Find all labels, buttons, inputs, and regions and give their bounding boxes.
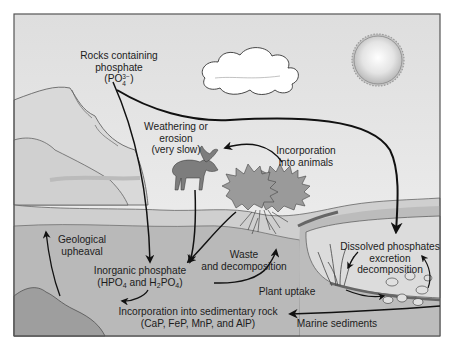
label-line: (CaP, FeP, MnP, and AlP)	[106, 318, 290, 330]
label-line: Geological	[52, 234, 112, 246]
formula-part: )	[130, 73, 133, 84]
formula-supsub: 3−4	[122, 74, 128, 84]
formula-hpo4-h2po4: (HPO4 and H2PO4)	[88, 277, 192, 292]
label-line: phosphate	[64, 62, 174, 74]
label-line: Weathering or	[136, 121, 216, 133]
label-line: erosion	[136, 133, 216, 145]
label-waste-decomposition: Waste and decomposition	[196, 249, 292, 272]
label-line: upheaval	[52, 246, 112, 258]
label-weathering: Weathering or erosion (very slow)	[136, 121, 216, 156]
label-rocks-containing-phosphate: Rocks containing phosphate (PO3−4)	[64, 50, 174, 85]
label-line: and decomposition	[196, 261, 292, 273]
label-marine-sediments: Marine sediments	[290, 318, 384, 330]
label-dissolved-phosphates: Dissolved phosphates excretion decomposi…	[335, 241, 445, 276]
label-line: (very slow)	[136, 144, 216, 156]
label-line: Inorganic phosphate	[88, 265, 192, 277]
label-line: Dissolved phosphates	[335, 241, 445, 253]
label-plant-uptake: Plant uptake	[252, 286, 322, 298]
label-line: Incorporation	[266, 145, 346, 157]
label-line: decomposition	[335, 264, 445, 276]
label-line: Waste	[196, 249, 292, 261]
phosphorus-cycle-diagram: Rocks containing phosphate (PO3−4) Weath…	[0, 0, 452, 344]
label-line: Rocks containing	[64, 50, 174, 62]
formula-part: (HPO	[97, 277, 122, 288]
label-incorporation-into-animals: Incorporation into animals	[266, 145, 346, 168]
sun	[352, 34, 404, 86]
formula-part: and H	[127, 277, 157, 288]
label-line: into animals	[266, 157, 346, 169]
label-geological-upheaval: Geological upheaval	[52, 234, 112, 257]
formula-po4: (PO3−4)	[64, 73, 174, 85]
formula-sub: 4	[122, 78, 126, 90]
label-inorganic-phosphate: Inorganic phosphate (HPO4 and H2PO4)	[88, 265, 192, 291]
formula-part: PO	[161, 277, 176, 288]
formula-part: )	[179, 277, 182, 288]
label-sedimentary-rock: Incorporation into sedimentary rock (CaP…	[106, 306, 290, 329]
label-line: excretion	[335, 253, 445, 265]
formula-part: (PO	[104, 73, 122, 84]
label-line: Incorporation into sedimentary rock	[106, 306, 290, 318]
